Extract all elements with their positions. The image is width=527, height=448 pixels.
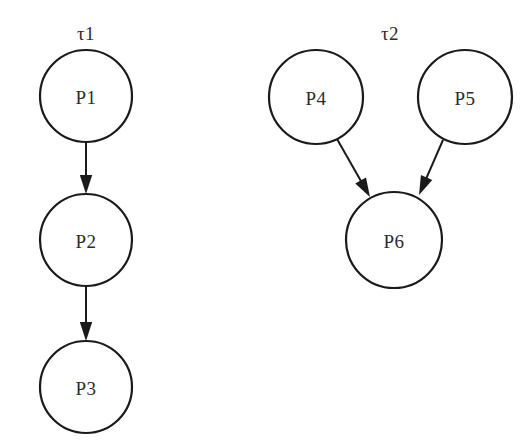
node-p5-label: P5 xyxy=(455,88,476,109)
diagram-canvas: τ1 τ2 P1 P2 xyxy=(0,0,527,448)
node-p2[interactable]: P2 xyxy=(40,194,132,286)
group-label-tau1-text: τ1 xyxy=(77,23,95,44)
node-p1[interactable]: P1 xyxy=(40,50,132,142)
edge-p5-p6[interactable] xyxy=(419,140,443,195)
group-label-tau2-text: τ2 xyxy=(381,23,399,44)
edge-p4-p6-line xyxy=(337,139,362,183)
edge-p1-p2-arrowhead xyxy=(80,175,92,194)
edge-p2-p3[interactable] xyxy=(80,286,92,341)
node-p2-label: P2 xyxy=(76,231,97,252)
node-p4[interactable]: P4 xyxy=(269,50,363,144)
node-p3[interactable]: P3 xyxy=(40,341,132,433)
node-p3-label: P3 xyxy=(76,378,97,399)
edge-p1-p2[interactable] xyxy=(80,142,92,194)
edge-p5-p6-arrowhead xyxy=(419,175,432,195)
node-p1-label: P1 xyxy=(76,87,97,108)
group-label-tau2: τ2 xyxy=(381,23,399,44)
edge-p4-p6-arrowhead xyxy=(355,177,370,197)
edge-p2-p3-arrowhead xyxy=(80,322,92,341)
edge-p5-p6-line xyxy=(425,140,443,180)
edge-p4-p6[interactable] xyxy=(337,139,370,197)
group-label-tau1: τ1 xyxy=(77,23,95,44)
node-p6-label: P6 xyxy=(384,231,405,252)
node-p5[interactable]: P5 xyxy=(418,50,512,144)
diagram-svg: τ1 τ2 P1 P2 xyxy=(0,0,527,448)
node-p6[interactable]: P6 xyxy=(346,192,442,288)
node-p4-label: P4 xyxy=(306,88,327,109)
